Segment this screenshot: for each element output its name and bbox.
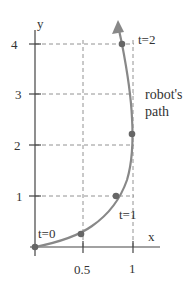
arrowhead-icon xyxy=(112,20,124,34)
point-t1-5 xyxy=(129,131,136,138)
label-t1: t=1 xyxy=(119,207,136,222)
label-t0: t=0 xyxy=(38,226,55,241)
x-tick-0.5: 0.5 xyxy=(74,262,90,277)
robot-path-curve xyxy=(35,30,132,247)
label-t2: t=2 xyxy=(138,32,155,47)
label-robots-path-line2: path xyxy=(145,104,169,119)
axes xyxy=(29,30,160,256)
y-tick-2: 2 xyxy=(14,138,21,153)
y-tick-4: 4 xyxy=(11,37,18,52)
point-t0-5 xyxy=(78,231,85,238)
point-t1 xyxy=(113,193,120,200)
y-axis-label: y xyxy=(37,16,44,31)
label-robots-path-line1: robot's xyxy=(145,87,183,102)
y-tick-1: 1 xyxy=(16,189,23,204)
x-axis-label: x xyxy=(148,229,155,244)
point-t0 xyxy=(32,244,39,251)
y-tick-3: 3 xyxy=(15,87,22,102)
point-t2 xyxy=(119,41,126,48)
x-tick-1: 1 xyxy=(129,261,136,276)
robot-path-diagram: y x 4 3 2 1 0.5 1 t=0 t=1 t=2 robot's pa… xyxy=(0,0,196,290)
